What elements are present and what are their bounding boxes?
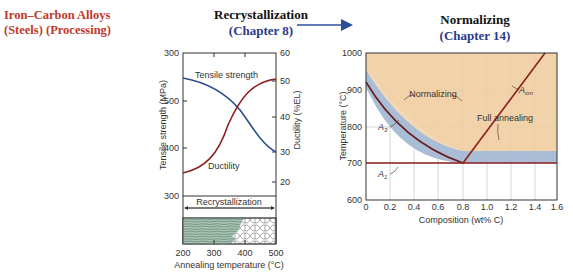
ductility-label: Ductility [208,161,240,171]
svg-text:0.6: 0.6 [432,202,445,212]
svg-text:300: 300 [164,48,179,58]
temperature-axis-label: Temperature (°C) [338,91,348,160]
composition-axis-label: Composition (wt% C) [419,215,504,225]
svg-text:0.4: 0.4 [408,202,421,212]
svg-text:300: 300 [206,248,221,258]
normalizing-chart: Normalizing Full annealing Acm A3 A1 100… [338,48,563,225]
svg-text:50: 50 [280,76,290,86]
tensile-axis-label: Tensile strength (MPa) [158,80,168,170]
svg-text:1.6: 1.6 [551,202,564,212]
svg-text:400: 400 [237,248,252,258]
recrystallization-band-label: Recrystallization [196,197,262,207]
svg-text:0.2: 0.2 [384,202,397,212]
ductility-axis-label: Ductility (%EL) [292,90,302,149]
full-annealing-annotation: Full annealing [477,113,533,123]
svg-text:1000: 1000 [342,48,362,58]
normalizing-annotation: Normalizing [409,89,457,99]
svg-text:1.0: 1.0 [481,202,494,212]
svg-text:200: 200 [175,248,190,258]
svg-text:0: 0 [363,202,368,212]
svg-text:1.4: 1.4 [529,202,542,212]
svg-text:60: 60 [280,48,290,58]
svg-text:500: 500 [268,248,283,258]
svg-text:900: 900 [347,85,362,95]
svg-text:300: 300 [164,191,179,201]
svg-text:1.2: 1.2 [505,202,518,212]
svg-text:30: 30 [280,147,290,157]
svg-text:600: 600 [347,195,362,205]
tensile-strength-label: Tensile strength [195,70,258,80]
svg-text:20: 20 [280,177,290,187]
svg-text:0.8: 0.8 [457,202,470,212]
recrystallization-chart: 300 500 400 300 60 50 40 30 20 Tensile s… [158,48,302,270]
annealing-temp-axis-label: Annealing temperature (°C) [174,260,284,270]
svg-text:800: 800 [347,122,362,132]
diagram-canvas: 300 500 400 300 60 50 40 30 20 Tensile s… [0,0,573,273]
svg-text:700: 700 [347,158,362,168]
svg-text:40: 40 [280,112,290,122]
